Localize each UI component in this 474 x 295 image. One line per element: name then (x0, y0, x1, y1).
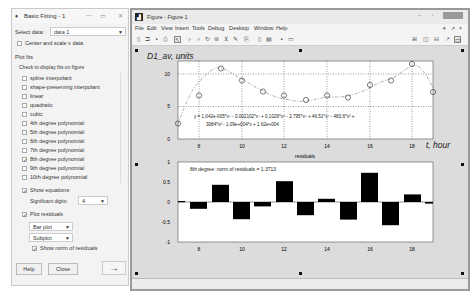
checkbox-box[interactable] (22, 85, 27, 90)
fit-option-cubic[interactable]: cubic (22, 111, 43, 117)
sig-digits-value: 4 (82, 198, 85, 204)
fit-option-shape-preserving[interactable]: shape-preserving interpolant (22, 84, 100, 90)
checkbox-box[interactable] (22, 94, 27, 99)
checkbox-checked[interactable]: ✓ (22, 157, 27, 162)
menu-insert[interactable]: Insert (175, 25, 189, 31)
link-plot-icon[interactable]: ⎘ (243, 36, 250, 43)
close-button[interactable]: Close (48, 263, 78, 275)
show-plot-tools-icon[interactable]: ▭ (287, 36, 294, 43)
select-data-label: Select data: (15, 29, 44, 35)
left-right-icon[interactable]: ◫ (422, 36, 429, 43)
residual-plot-type-dropdown[interactable]: Bar plot ▼ (29, 222, 73, 231)
pan-icon[interactable]: ↻ (204, 36, 211, 43)
y-tick: 5 (167, 103, 170, 109)
brush-icon[interactable]: ✎ (232, 36, 239, 43)
checkbox-box[interactable] (22, 139, 27, 144)
close-icon[interactable]: ✕ (118, 12, 123, 19)
checkbox-checked[interactable]: ✓ (32, 246, 37, 251)
checkbox-box[interactable] (22, 76, 27, 81)
checkbox-box[interactable] (22, 175, 27, 180)
checkbox-box[interactable] (22, 130, 27, 135)
new-figure-icon[interactable]: ▯ (135, 36, 142, 43)
show-norm-checkbox[interactable]: ✓Show norm of residuals (32, 245, 97, 251)
center-scale-label: Center and scale x data (25, 40, 83, 46)
checkbox-box[interactable] (22, 121, 27, 126)
print-icon[interactable]: ⎙ (162, 36, 169, 43)
data-cursor-icon[interactable]: ⊻ (222, 36, 229, 43)
figure-window: ▟ Figure - Figure 1 – ▫ File Edit View I… (130, 8, 470, 291)
figure-canvas: D1_av, units 10 5 0 8 10 12 14 16 18 t, … (134, 48, 466, 279)
figure-toolbar: ▯ ⊐ ▪ ⎙ ↖ ⌕ ⌕ ↻ ⊛ ⊻ ✎ ⎘ ▯ ▤ ▪ ▭ ⊞ ◫ ⊟ ↗ … (132, 34, 468, 46)
minimize-icon[interactable]: – (418, 12, 430, 19)
menu-view[interactable]: View (161, 25, 173, 31)
fit-option-10th[interactable]: 10th degree polynomial (22, 174, 87, 180)
checkbox-box[interactable] (22, 148, 27, 153)
y-tick: 1 (167, 159, 170, 165)
legend-icon[interactable]: ▤ (265, 36, 272, 43)
menu-edit[interactable]: Edit (147, 25, 156, 31)
rotate-3d-icon[interactable]: ⊛ (213, 36, 220, 43)
fit-label: quadratic (30, 102, 53, 108)
colorbar-icon[interactable]: ▯ (256, 36, 263, 43)
close-figure-icon[interactable]: × (459, 25, 462, 31)
checkbox-box[interactable] (17, 41, 22, 46)
x-tick: 18 (409, 246, 415, 252)
center-scale-checkbox[interactable]: Center and scale x data (17, 40, 83, 46)
fit-option-6th[interactable]: 6th degree polynomial (22, 138, 84, 144)
fit-option-9th[interactable]: 9th degree polynomial (22, 165, 84, 171)
top-bottom-icon[interactable]: ⊟ (433, 36, 440, 43)
fit-option-4th[interactable]: 4th degree polynomial (22, 120, 84, 126)
fit-option-5th[interactable]: 5th degree polynomial (22, 129, 84, 135)
plot-residuals-checkbox[interactable]: ✓Plot residuals (22, 211, 63, 217)
menu-desktop[interactable]: Desktop (229, 25, 249, 31)
checkbox-box[interactable] (22, 166, 27, 171)
edit-plot-icon[interactable]: ↖ (174, 36, 181, 43)
fit-option-7th[interactable]: 7th degree polynomial (22, 147, 84, 153)
sig-digits-dropdown[interactable]: 4 ▼ (78, 196, 108, 205)
checkbox-box[interactable] (22, 112, 27, 117)
more-results-arrow-button[interactable]: → (102, 261, 126, 275)
fit-option-quadratic[interactable]: quadratic (22, 102, 53, 108)
fit-label: 4th degree polynomial (30, 120, 84, 126)
float-icon[interactable]: ↗ (444, 36, 451, 43)
save-icon[interactable]: ▪ (153, 36, 160, 43)
menu-file[interactable]: File (135, 25, 144, 31)
x-tick: 16 (367, 246, 373, 252)
residual-location-dropdown[interactable]: Subplot ▼ (29, 233, 73, 242)
undock-icon[interactable]: ↗ (451, 25, 455, 31)
norm-of-residuals-text: 8th degree: norm of residuals = 1.3713 (190, 166, 276, 172)
show-equations-checkbox[interactable]: ✓Show equations (22, 187, 69, 193)
fit-option-linear[interactable]: linear (22, 93, 43, 99)
close-icon[interactable] (443, 12, 463, 19)
help-button[interactable]: Help (16, 263, 42, 275)
maximize-icon[interactable]: ▫ (432, 12, 442, 19)
residual-plot-type-value: Bar plot (33, 224, 52, 230)
fit-option-8th[interactable]: ✓8th degree polynomial (22, 156, 84, 162)
x-tick: 16 (367, 143, 373, 149)
x-tick: 8 (198, 143, 201, 149)
basic-fitting-dialog: ♦ Basic Fitting - 1 — ▭ ✕ Select data: d… (11, 8, 129, 286)
fit-option-spline[interactable]: spline interpolant (22, 75, 72, 81)
dock-menu-icon[interactable]: ▾ (443, 25, 446, 31)
maximize-icon[interactable]: ▭ (100, 12, 106, 19)
checkbox-checked[interactable]: ✓ (22, 212, 27, 217)
tile-icon[interactable]: ⊞ (411, 36, 418, 43)
sig-digits-label: Significant digits: (30, 198, 68, 204)
select-data-dropdown[interactable]: data 1 ▼ (50, 27, 126, 36)
residuals-title: residuals (295, 153, 316, 159)
zoom-out-icon[interactable]: ⌕ (195, 36, 202, 43)
checkbox-checked[interactable]: ✓ (22, 188, 27, 193)
x-tick: 8 (198, 246, 201, 252)
open-file-icon[interactable]: ⊐ (144, 36, 151, 43)
menu-debug[interactable]: Debug (208, 25, 224, 31)
minimize-icon[interactable]: — (86, 12, 92, 18)
hide-plot-tools-icon[interactable]: ▪ (278, 36, 285, 43)
checkbox-box[interactable] (22, 103, 27, 108)
maximize-icon[interactable]: ▭ (454, 36, 461, 43)
x-tick: 10 (239, 246, 245, 252)
menu-help[interactable]: Help (276, 25, 287, 31)
zoom-in-icon[interactable]: ⌕ (186, 36, 193, 43)
menu-tools[interactable]: Tools (192, 25, 205, 31)
chevron-down-icon: ▼ (118, 28, 123, 36)
menu-window[interactable]: Window (254, 25, 274, 31)
